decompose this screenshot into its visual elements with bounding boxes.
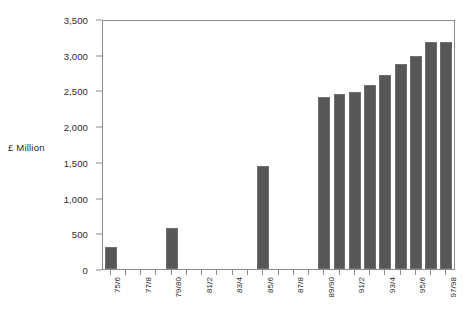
x-axis-tick-label: 83/4 xyxy=(235,277,244,293)
x-axis-tick-label: 85/6 xyxy=(266,277,275,293)
bar-chart: £ Million 05001,0001,5002,0002,5003,0003… xyxy=(0,0,467,315)
x-axis-tick-mark xyxy=(140,270,141,275)
y-axis-tick-label: 1,500 xyxy=(0,157,88,168)
x-axis-tick-mark xyxy=(171,270,172,275)
y-axis-tick-label: 3,500 xyxy=(0,15,88,26)
x-axis-tick-mark xyxy=(415,270,416,275)
x-axis-tick-mark xyxy=(339,270,340,275)
bar xyxy=(257,166,269,269)
bar xyxy=(334,94,346,269)
y-axis-tick-label: 0 xyxy=(0,265,88,276)
bar xyxy=(364,85,376,269)
x-axis-tick-label: 87/8 xyxy=(296,277,305,293)
x-axis-tick-mark xyxy=(110,270,111,275)
x-axis-tick-mark xyxy=(155,270,156,275)
x-axis-tick-mark xyxy=(247,270,248,275)
bar xyxy=(410,56,422,269)
x-axis-tick-mark xyxy=(201,270,202,275)
y-axis-tick-label: 1,000 xyxy=(0,193,88,204)
bar xyxy=(395,64,407,269)
y-axis-tick-label: 2,000 xyxy=(0,122,88,133)
x-axis-tick-mark xyxy=(445,270,446,275)
x-axis-tick-label: 97/98 xyxy=(449,277,458,298)
x-axis-tick-mark xyxy=(186,270,187,275)
bar xyxy=(349,92,361,269)
x-axis-tick-mark xyxy=(308,270,309,275)
x-axis-tick-mark xyxy=(278,270,279,275)
y-axis-labels: 05001,0001,5002,0002,5003,0003,500 xyxy=(0,0,102,315)
x-axis-tick-mark xyxy=(400,270,401,275)
x-axis-tick-mark xyxy=(216,270,217,275)
bar xyxy=(425,42,437,269)
x-axis-tick-mark xyxy=(293,270,294,275)
x-axis-tick-label: 91/2 xyxy=(357,277,366,293)
x-axis-tick-label: 89/90 xyxy=(327,277,336,298)
bar xyxy=(440,42,452,269)
x-axis-tick-mark xyxy=(262,270,263,275)
x-axis-tick-mark xyxy=(384,270,385,275)
x-axis-tick-mark xyxy=(323,270,324,275)
bar-series xyxy=(103,21,454,269)
x-axis-tick-label: 77/8 xyxy=(144,277,153,293)
bar xyxy=(318,97,330,269)
x-axis-tick-mark xyxy=(430,270,431,275)
x-axis-tick-mark xyxy=(125,270,126,275)
x-axis: 75/677/879/8081/283/485/687/889/9091/293… xyxy=(102,270,455,315)
x-axis-tick-label: 81/2 xyxy=(205,277,214,293)
x-axis-tick-label: 93/4 xyxy=(388,277,397,293)
bar xyxy=(105,247,117,269)
x-axis-tick-label: 95/6 xyxy=(418,277,427,293)
y-axis-tick-label: 500 xyxy=(0,229,88,240)
x-axis-tick-label: 75/6 xyxy=(113,277,122,293)
x-axis-tick-label: 79/80 xyxy=(174,277,183,298)
x-axis-tick-mark xyxy=(369,270,370,275)
plot-area xyxy=(102,20,455,270)
y-axis-tick-label: 3,000 xyxy=(0,50,88,61)
bar xyxy=(379,75,391,270)
x-axis-tick-mark xyxy=(232,270,233,275)
bar xyxy=(166,228,178,269)
y-axis-tick-label: 2,500 xyxy=(0,86,88,97)
x-axis-tick-mark xyxy=(354,270,355,275)
